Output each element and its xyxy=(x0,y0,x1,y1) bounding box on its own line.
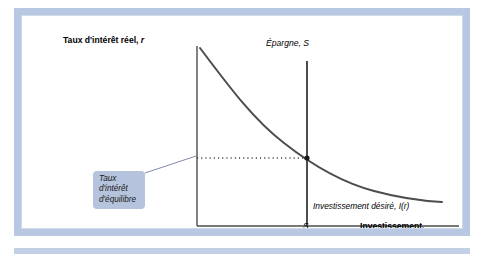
x-axis-label: Investissement,Épargne, I, S xyxy=(360,221,424,229)
chart-graphic xyxy=(22,16,463,229)
x-axis-tick-label-s: S xyxy=(303,222,309,229)
callout-line-2: d'intérêt xyxy=(99,184,140,194)
x-axis-label-line1: Investissement, xyxy=(360,221,424,229)
figure-canvas: Taux d'intérêt réel, r Épargne, S Invest… xyxy=(21,15,463,229)
figure-frame: Taux d'intérêt réel, r Épargne, S Invest… xyxy=(14,8,470,236)
investment-curve xyxy=(200,48,442,202)
bottom-accent-bar xyxy=(14,248,470,254)
callout-line-3: d'équilibre xyxy=(99,195,140,205)
y-axis-label: Taux d'intérêt réel, r xyxy=(63,35,144,45)
callout-leader-line xyxy=(145,156,196,173)
callout-line-1: Taux xyxy=(99,174,140,184)
investment-curve-label: Investissement désiré, I(r) xyxy=(313,202,409,212)
equilibrium-rate-callout: Taux d'intérêt d'équilibre xyxy=(93,171,145,209)
y-axis-label-text: Taux d'intérêt réel, xyxy=(63,35,141,45)
equilibrium-point xyxy=(304,155,309,160)
saving-curve-label: Épargne, S xyxy=(266,38,309,48)
y-axis-label-variable: r xyxy=(141,35,144,45)
